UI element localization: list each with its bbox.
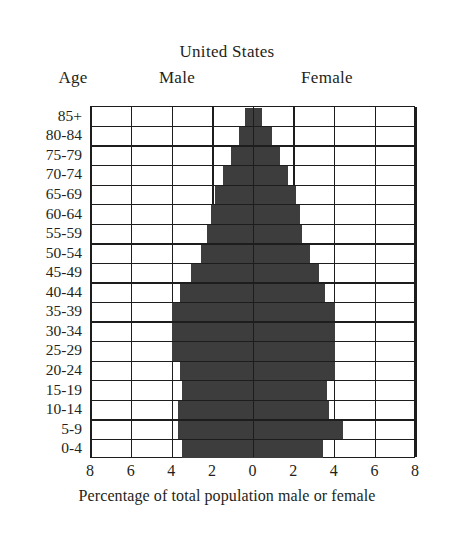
bar-male-10-14 <box>178 401 253 419</box>
age-label-80-84: 80-84 <box>46 127 82 143</box>
age-label-5-9: 5-9 <box>61 421 82 437</box>
bar-male-45-49 <box>191 264 254 282</box>
x-tick-6: 4 <box>319 462 349 480</box>
x-axis-caption: Percentage of total population male or f… <box>0 487 454 505</box>
bar-female-5-9 <box>254 421 343 439</box>
center-axis-line <box>253 107 255 457</box>
x-tick-1: 6 <box>116 462 146 480</box>
bar-female-80-84 <box>254 127 272 145</box>
x-tick-0: 8 <box>75 462 105 480</box>
bar-female-70-74 <box>254 166 289 184</box>
bar-female-15-19 <box>254 381 327 399</box>
age-label-35-39: 35-39 <box>46 303 82 319</box>
x-tick-8: 8 <box>400 462 430 480</box>
bar-female-35-39 <box>254 303 335 321</box>
bar-male-60-64 <box>211 205 254 223</box>
plot-area <box>90 106 415 458</box>
bar-female-0-4 <box>254 440 323 458</box>
x-tick-4: 0 <box>238 462 268 480</box>
bar-female-10-14 <box>254 401 329 419</box>
x-tick-7: 6 <box>359 462 389 480</box>
bar-female-75-79 <box>254 147 280 165</box>
header-female: Female <box>272 68 382 88</box>
bar-female-85+ <box>254 108 262 126</box>
bar-male-20-24 <box>180 362 253 380</box>
header-male: Male <box>122 68 232 88</box>
bar-male-70-74 <box>223 166 253 184</box>
bar-male-30-34 <box>172 323 253 341</box>
age-label-50-54: 50-54 <box>46 245 82 261</box>
age-label-55-59: 55-59 <box>46 225 82 241</box>
bar-female-55-59 <box>254 225 303 243</box>
bar-female-20-24 <box>254 362 335 380</box>
x-tick-3: 2 <box>197 462 227 480</box>
age-label-10-14: 10-14 <box>46 401 82 417</box>
x-tick-2: 4 <box>156 462 186 480</box>
bar-female-50-54 <box>254 245 311 263</box>
bar-female-30-34 <box>254 323 335 341</box>
bar-female-65-69 <box>254 186 297 204</box>
bar-male-75-79 <box>231 147 253 165</box>
bar-male-5-9 <box>178 421 253 439</box>
age-label-70-74: 70-74 <box>46 166 82 182</box>
x-tick-5: 2 <box>278 462 308 480</box>
bar-male-40-44 <box>180 284 253 302</box>
population-pyramid-figure: United States Age Male Female 85+80-8475… <box>0 0 454 533</box>
age-label-65-69: 65-69 <box>46 186 82 202</box>
axis-label-age: Age <box>40 68 106 88</box>
bar-male-65-69 <box>215 186 254 204</box>
bar-male-35-39 <box>172 303 253 321</box>
age-label-45-49: 45-49 <box>46 264 82 280</box>
age-label-25-29: 25-29 <box>46 342 82 358</box>
age-label-60-64: 60-64 <box>46 206 82 222</box>
age-label-40-44: 40-44 <box>46 284 82 300</box>
age-label-75-79: 75-79 <box>46 147 82 163</box>
gridline-vertical <box>415 107 416 457</box>
bar-male-55-59 <box>207 225 254 243</box>
bar-male-0-4 <box>182 440 253 458</box>
bar-male-80-84 <box>239 127 253 145</box>
bar-male-50-54 <box>201 245 254 263</box>
chart-title: United States <box>0 42 454 62</box>
bar-male-25-29 <box>172 342 253 360</box>
age-label-0-4: 0-4 <box>61 440 82 456</box>
bar-male-15-19 <box>182 381 253 399</box>
age-label-20-24: 20-24 <box>46 362 82 378</box>
age-label-85+: 85+ <box>58 108 82 124</box>
age-label-30-34: 30-34 <box>46 323 82 339</box>
bar-female-60-64 <box>254 205 301 223</box>
bar-female-25-29 <box>254 342 335 360</box>
bar-female-45-49 <box>254 264 319 282</box>
age-label-15-19: 15-19 <box>46 382 82 398</box>
bar-female-40-44 <box>254 284 325 302</box>
